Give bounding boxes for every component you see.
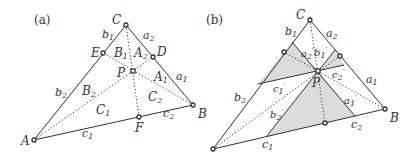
svg-text:b2′: b2′ [270,107,284,122]
svg-text:a1′: a1′ [344,93,357,108]
svg-text:c2: c2 [351,118,362,132]
point-b [191,103,195,107]
point-a-b [211,147,215,151]
triangle-abc [34,25,193,140]
svg-text:C1: C1 [96,103,110,118]
figure: (a) C A B D E F P a2 a1 [0,0,416,163]
svg-text:a1: a1 [366,73,378,87]
vertex-a-label: A [20,134,30,148]
svg-text:B1: B1 [113,46,128,61]
point-f [137,115,141,119]
svg-text:b1′: b1′ [314,45,328,60]
vertex-d-label: D [156,45,167,59]
point-a [32,138,36,142]
svg-text:c1: c1 [262,138,273,152]
point-p-b [316,69,320,73]
svg-text:c2′: c2′ [332,67,345,82]
vertex-b-label-b: B [389,111,399,125]
point-d-b [338,54,342,58]
panel-b: (b) [206,8,399,152]
vertex-c-label: C [112,13,121,27]
point-f-b [323,121,327,125]
svg-text:b2: b2 [55,86,67,100]
svg-text:b1: b1 [285,25,297,39]
svg-text:c1′: c1′ [273,81,286,96]
point-b-b [383,107,387,111]
vertex-b-label: B [197,107,207,121]
panel-a-label: (a) [34,13,51,27]
svg-text:c1: c1 [82,127,93,141]
vertex-f-label: F [134,121,144,135]
point-d [151,55,155,59]
point-c [124,23,128,27]
svg-text:a2: a2 [326,27,338,41]
panel-a: (a) C A B D E F P a2 a1 [20,13,207,148]
svg-text:b2: b2 [234,91,246,105]
svg-text:C2: C2 [148,90,162,105]
vertex-p-label: P [116,66,126,80]
svg-text:B2: B2 [81,84,96,99]
svg-text:b1: b1 [102,28,114,42]
svg-text:a2: a2 [143,29,155,43]
point-e-b [282,50,286,54]
vertex-p-label-b: P [311,76,321,90]
vertex-c-label-b: C [296,8,305,22]
point-p [131,69,135,73]
panel-b-label: (b) [206,13,223,27]
vertex-e-label: E [90,46,100,60]
point-c-b [308,18,312,22]
svg-text:a1: a1 [176,70,188,84]
svg-text:a2′: a2′ [301,46,314,61]
point-e [101,51,105,55]
